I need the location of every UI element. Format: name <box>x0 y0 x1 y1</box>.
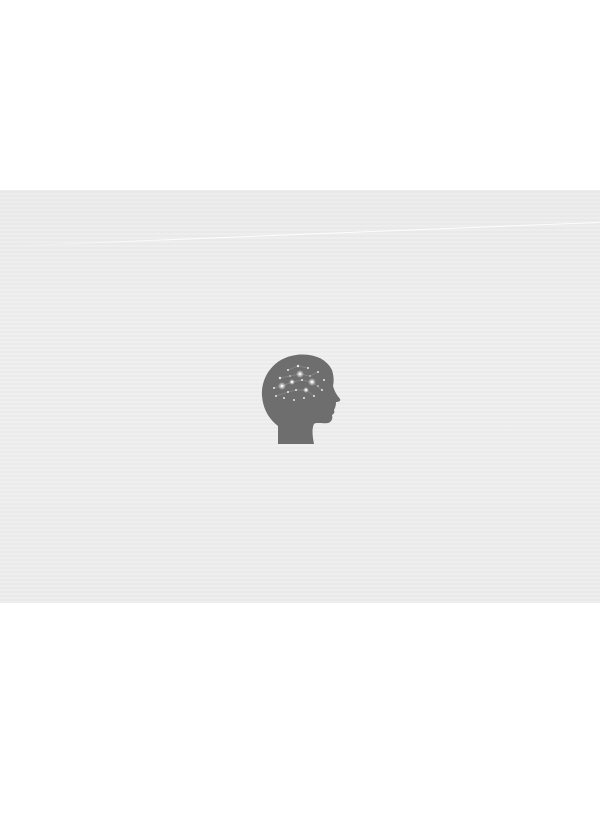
head-brain-network-icon <box>260 352 342 444</box>
